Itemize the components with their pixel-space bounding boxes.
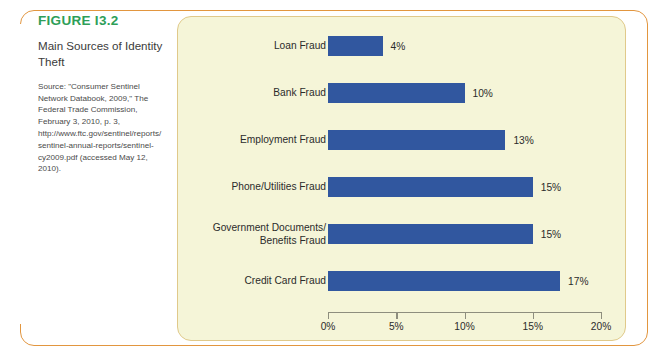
bar-category-label: Bank Fraud [176, 86, 326, 99]
bar [328, 177, 533, 197]
bar [328, 36, 383, 56]
figure-container: FIGURE I3.2 Main Sources of Identity The… [0, 0, 659, 359]
figure-caption-column: FIGURE I3.2 Main Sources of Identity The… [38, 14, 164, 175]
bar-track: 10% [328, 83, 601, 103]
bar-category-label: Phone/Utilities Fraud [176, 180, 326, 193]
figure-title: Main Sources of Identity Theft [38, 38, 164, 71]
bar-track: 15% [328, 224, 601, 244]
frame-left-mask [0, 24, 28, 324]
bar-category-label: Employment Fraud [176, 133, 326, 146]
bar [328, 130, 505, 150]
bar-category-label-line: Benefits Fraud [176, 234, 326, 247]
x-axis-tick-label: 0% [321, 321, 336, 332]
bar-track: 17% [328, 271, 601, 291]
bar-value-label: 13% [513, 135, 533, 146]
x-axis-tick [465, 312, 466, 319]
x-axis-tick [328, 312, 329, 319]
bar-category-label-line: Government Documents/ [176, 221, 326, 234]
bar-value-label: 15% [541, 182, 561, 193]
x-axis-tick-label: 10% [454, 321, 474, 332]
x-axis-tick [533, 312, 534, 319]
bar-value-label: 10% [473, 88, 493, 99]
x-axis-tick-label: 20% [591, 321, 611, 332]
bar-row: Employment Fraud13% [178, 119, 627, 161]
x-axis-tick [396, 312, 397, 319]
bar-category-label: Government Documents/Benefits Fraud [176, 221, 326, 247]
bar-value-label: 4% [391, 41, 406, 52]
bar [328, 83, 465, 103]
bar-row: Bank Fraud10% [178, 72, 627, 114]
figure-number: FIGURE I3.2 [38, 14, 164, 29]
bar-category-label: Credit Card Fraud [176, 274, 326, 287]
bar-row: Phone/Utilities Fraud15% [178, 166, 627, 208]
bar-track: 15% [328, 177, 601, 197]
bar-category-label: Loan Fraud [176, 39, 326, 52]
x-axis-tick-label: 15% [523, 321, 543, 332]
bar-track: 4% [328, 36, 601, 56]
bar-row: Credit Card Fraud17% [178, 260, 627, 302]
bar-row: Loan Fraud4% [178, 25, 627, 67]
bar-value-label: 17% [568, 276, 588, 287]
x-axis-tick [601, 312, 602, 319]
bar-row: Government Documents/Benefits Fraud15% [178, 213, 627, 255]
bar [328, 224, 533, 244]
bar-track: 13% [328, 130, 601, 150]
bar-value-label: 15% [541, 229, 561, 240]
bar [328, 271, 560, 291]
x-axis-tick-label: 5% [389, 321, 404, 332]
figure-source-note: Source: "Consumer Sentinel Network Datab… [38, 81, 164, 176]
chart-panel: Loan Fraud4%Bank Fraud10%Employment Frau… [177, 16, 626, 341]
bar-chart-plot: Loan Fraud4%Bank Fraud10%Employment Frau… [178, 17, 627, 342]
